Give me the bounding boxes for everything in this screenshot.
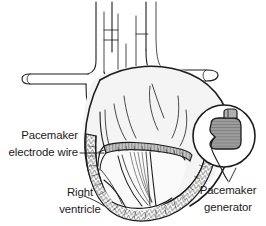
- label-generator-line2: generator: [204, 201, 252, 213]
- label-right-ventricle-line2: ventricle: [59, 203, 101, 215]
- label-right-ventricle-line1: Right: [67, 186, 94, 198]
- label-electrode-wire-line2: electrode wire: [8, 146, 78, 158]
- generator-connector-nub: [224, 109, 237, 118]
- illustration-canvas: Pacemaker electrode wire Right ventricle…: [0, 0, 266, 226]
- generator-can: [210, 118, 241, 149]
- pacemaker-heart-figure: Pacemaker electrode wire Right ventricle…: [0, 0, 266, 226]
- label-generator-line1: Pacemaker: [200, 184, 257, 196]
- label-electrode-wire-line1: Pacemaker: [21, 129, 78, 141]
